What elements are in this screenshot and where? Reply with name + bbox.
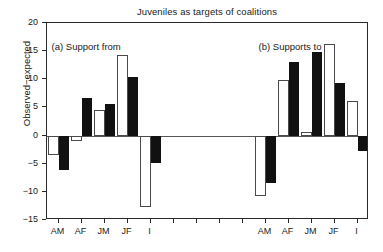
panel-label-a: (a) Support from	[52, 41, 121, 52]
bar-b-jf-filled	[335, 83, 346, 135]
x-tick-mark	[173, 219, 174, 223]
bar-a-i-filled	[151, 136, 162, 164]
bar-a-jf-open	[117, 55, 128, 135]
y-tick-label: 20	[12, 18, 38, 27]
bar-b-af-open	[278, 80, 289, 135]
x-tick-mark	[127, 219, 128, 223]
x-tick-label: I	[135, 226, 165, 236]
x-tick-mark	[265, 219, 266, 223]
x-tick-label: I	[342, 226, 372, 236]
y-axis-ticks: 20151050−5−10−15	[0, 22, 46, 219]
x-tick-mark	[81, 219, 82, 223]
bar-a-i-open	[140, 136, 151, 207]
y-tick-label: 5	[12, 102, 38, 111]
x-tick-mark	[150, 219, 151, 223]
chart-figure: Juveniles as targets of coalitions Obser…	[0, 0, 383, 252]
x-tick-mark	[357, 219, 358, 223]
x-tick-mark	[196, 219, 197, 223]
bar-a-jf-filled	[128, 77, 139, 136]
y-tick-label: −15	[12, 215, 38, 224]
y-tick-label: 10	[12, 74, 38, 83]
y-tick-label: 15	[12, 46, 38, 55]
bar-b-i-filled	[358, 136, 369, 152]
bar-b-af-filled	[289, 62, 300, 135]
y-tick-label: 0	[12, 130, 38, 139]
bar-b-am-filled	[266, 136, 277, 183]
x-axis-ticks: AMAFJMJFIAMAFJMJFI	[46, 219, 368, 249]
chart-title: Juveniles as targets of coalitions	[46, 6, 368, 17]
panel-label-b: (b) Supports to	[259, 41, 322, 52]
x-tick-mark	[219, 219, 220, 223]
bar-a-am-filled	[59, 136, 70, 171]
bar-b-am-open	[255, 136, 266, 197]
bar-b-jf-open	[324, 44, 335, 135]
x-tick-mark	[311, 219, 312, 223]
bar-a-jm-filled	[105, 104, 116, 136]
x-tick-mark	[242, 219, 243, 223]
x-tick-mark	[288, 219, 289, 223]
x-tick-mark	[334, 219, 335, 223]
y-tick-label: −10	[12, 186, 38, 195]
bar-a-am-open	[48, 136, 59, 156]
bar-b-i-open	[347, 101, 358, 136]
x-tick-mark	[104, 219, 105, 223]
y-tick-label: −5	[12, 158, 38, 167]
bar-b-jm-open	[301, 132, 312, 136]
zero-reference-line	[47, 136, 367, 137]
x-tick-mark	[58, 219, 59, 223]
bar-a-af-open	[71, 136, 82, 141]
plot-area: (a) Support from(b) Supports to	[46, 22, 368, 219]
bar-b-jm-filled	[312, 52, 323, 136]
bar-a-af-filled	[82, 98, 93, 135]
bar-a-jm-open	[94, 110, 105, 136]
